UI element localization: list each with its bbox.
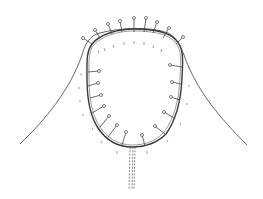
- sleeve-pinning-diagram: [0, 0, 263, 199]
- underarm-seam: [129, 147, 135, 190]
- armhole-oval: [87, 29, 183, 147]
- sleeve-cap-curve: [20, 28, 247, 145]
